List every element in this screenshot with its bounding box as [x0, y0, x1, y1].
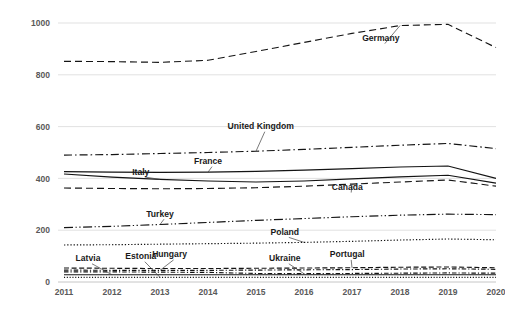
series-line-united-kingdom — [64, 143, 496, 155]
x-axis-tick-label: 2011 — [55, 287, 74, 297]
leader-line-turkey — [160, 219, 164, 224]
x-axis-tick-label: 2016 — [295, 287, 314, 297]
data-series-group — [64, 24, 496, 277]
leader-line-portugal — [351, 260, 352, 268]
series-label-latvia: Latvia — [76, 253, 101, 263]
leader-line-poland — [289, 237, 304, 242]
x-axis-tick-labels: 2011201220132014201520162017201820192020 — [55, 287, 505, 297]
leader-line-united-kingdom — [256, 132, 265, 152]
leader-line-france — [208, 167, 212, 173]
series-line-germany — [64, 24, 496, 62]
y-axis-tick-label: 800 — [36, 70, 50, 80]
series-label-portugal: Portugal — [330, 249, 365, 259]
y-axis-tick-label: 600 — [36, 122, 50, 132]
x-axis-tick-label: 2014 — [199, 287, 218, 297]
series-line-hungary — [64, 269, 496, 271]
series-line-ukraine — [64, 272, 496, 274]
series-label-hungary: Hungary — [152, 249, 187, 259]
series-label-canada: Canada — [332, 182, 363, 192]
series-label-turkey: Turkey — [146, 209, 174, 219]
x-axis-tick-label: 2018 — [391, 287, 410, 297]
series-label-united-kingdom: United Kingdom — [228, 121, 295, 131]
y-axis-tick-label: 400 — [36, 174, 50, 184]
series-label-italy: Italy — [132, 167, 149, 177]
chart-plot-area: 02004006008001000 2011201220132014201520… — [0, 0, 505, 319]
x-axis-tick-label: 2020 — [487, 287, 505, 297]
x-axis-tick-label: 2012 — [103, 287, 122, 297]
y-axis-tick-labels: 02004006008001000 — [31, 18, 50, 287]
y-axis-tick-label: 1000 — [31, 18, 50, 28]
series-label-poland: Poland — [270, 227, 299, 237]
line-chart: 02004006008001000 2011201220132014201520… — [0, 0, 505, 319]
x-axis-tick-label: 2013 — [151, 287, 170, 297]
x-axis-tick-label: 2019 — [439, 287, 458, 297]
x-axis-tick-label: 2017 — [343, 287, 362, 297]
series-label-estonia: Estonia — [125, 251, 156, 261]
leader-line-latvia — [92, 264, 112, 275]
series-line-turkey — [64, 214, 496, 227]
y-axis-tick-label: 200 — [36, 225, 50, 235]
series-line-poland — [64, 239, 496, 245]
series-line-france — [64, 166, 496, 178]
series-line-portugal — [64, 267, 496, 269]
series-label-ukraine: Ukraine — [269, 253, 301, 263]
series-label-france: France — [194, 156, 222, 166]
y-axis-tick-label: 0 — [45, 277, 50, 287]
leader-line-ukraine — [289, 264, 304, 274]
series-label-germany: Germany — [362, 33, 399, 43]
x-axis-tick-label: 2015 — [247, 287, 266, 297]
